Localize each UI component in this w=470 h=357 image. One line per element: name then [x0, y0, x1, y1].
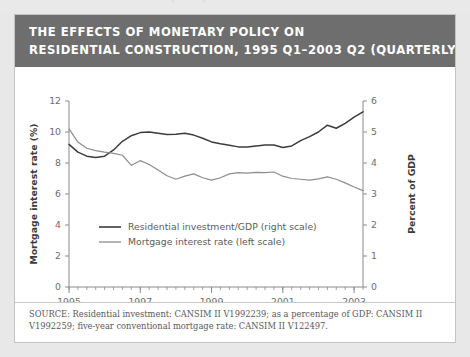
series-line-mortgage-interest-rate: [69, 129, 363, 191]
line-chart: 024681012012345619951997199920012003Mort…: [15, 67, 456, 307]
y-axis-right-tick-label: 6: [371, 95, 377, 106]
y-axis-left-tick-label: 6: [55, 188, 61, 199]
y-axis-left-tick-label: 10: [49, 126, 61, 137]
y-axis-left-tick-label: 2: [55, 250, 61, 261]
y-axis-left-tick-label: 12: [49, 95, 61, 106]
source-line-2: V1992259; five-year conventional mortgag…: [29, 321, 443, 333]
figure-source-note: SOURCE: Residential investment: CANSIM I…: [15, 302, 456, 342]
legend-label-0: Residential investment/GDP (right scale): [128, 221, 317, 232]
y-axis-left-tick-label: 0: [55, 281, 61, 292]
legend-label-1: Mortgage interest rate (left scale): [128, 236, 285, 247]
page-top-bleed: The Effects of Monetary Policy on Reside…: [0, 0, 470, 13]
y-axis-left-title: Mortgage interest rate (%): [28, 123, 39, 264]
y-axis-right-tick-label: 3: [371, 188, 377, 199]
source-line-1: SOURCE: Residential investment: CANSIM I…: [29, 309, 443, 321]
page-root: The Effects of Monetary Policy on Reside…: [0, 0, 470, 357]
y-axis-left-tick-label: 8: [55, 157, 61, 168]
figure-title-banner: THE EFFECTS OF MONETARY POLICY ON RESIDE…: [15, 15, 456, 67]
y-axis-right-tick-label: 2: [371, 219, 377, 230]
figure-title-line-2: RESIDENTIAL CONSTRUCTION, 1995 Q1–2003 Q…: [29, 41, 427, 59]
y-axis-right-tick-label: 4: [371, 157, 377, 168]
y-axis-right-tick-label: 1: [371, 250, 377, 261]
figure-card: THE EFFECTS OF MONETARY POLICY ON RESIDE…: [14, 14, 456, 343]
y-axis-right-tick-label: 5: [371, 126, 377, 137]
figure-title-line-1: THE EFFECTS OF MONETARY POLICY ON: [29, 23, 427, 41]
y-axis-left-tick-label: 4: [55, 219, 61, 230]
series-line-residential-investment-gdp: [69, 112, 363, 158]
bleed-text: The Effects of Monetary Policy on Reside…: [60, 0, 346, 2]
y-axis-right-title: Percent of GDP: [406, 154, 417, 234]
chart-plot-area: 024681012012345619951997199920012003Mort…: [15, 67, 456, 307]
y-axis-right-tick-label: 0: [371, 281, 377, 292]
